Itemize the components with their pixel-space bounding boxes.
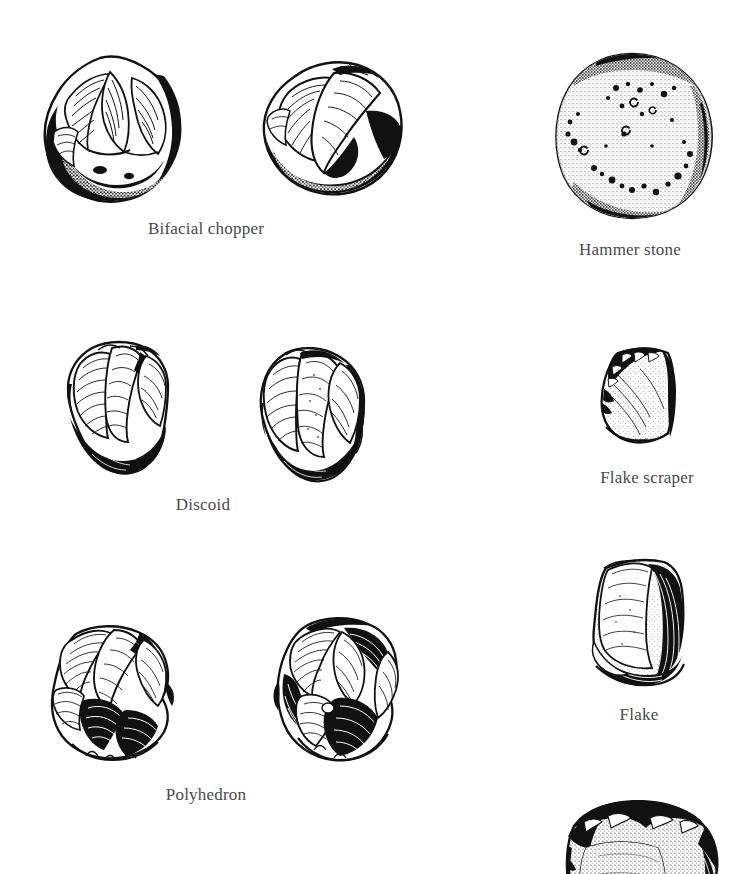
bifacial-chopper-view-a [32, 52, 192, 207]
bifacial-chopper-view-b [248, 55, 413, 205]
caption-polyhedron: Polyhedron [166, 785, 246, 805]
cropped-tool-view-a [546, 796, 746, 874]
caption-flake: Flake [620, 705, 659, 725]
caption-flake-scraper: Flake scraper [600, 468, 694, 488]
discoid-view-a [52, 338, 184, 478]
polyhedron-view-b [262, 612, 412, 770]
flake-view-a [586, 558, 698, 696]
flake-scraper-view-a [592, 345, 688, 455]
caption-discoid: Discoid [176, 495, 230, 515]
caption-hammer-stone: Hammer stone [579, 240, 681, 260]
caption-bifacial-chopper: Bifacial chopper [148, 219, 264, 239]
discoid-view-b [240, 345, 380, 485]
illustration-plate: Bifacial chopper [0, 0, 756, 874]
polyhedron-view-a [42, 618, 182, 766]
hammer-stone-view-a [552, 50, 716, 222]
